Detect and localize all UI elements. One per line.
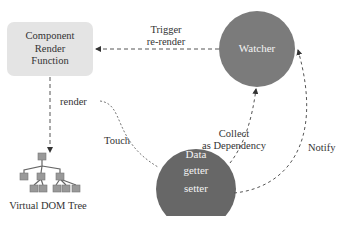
component-label-line3: Function <box>31 55 68 68</box>
vdom-tree-nodes <box>20 153 80 192</box>
watcher-label: Watcher <box>222 42 292 54</box>
touch-edge <box>100 101 158 167</box>
setter-label: setter <box>176 182 216 194</box>
trigger-line1: Trigger <box>140 24 192 36</box>
component-render-function-node: Component Render Function <box>7 22 93 76</box>
collect-line1: Collect <box>196 128 272 140</box>
trigger-line2: re-render <box>140 36 192 48</box>
component-label-line1: Component <box>26 30 75 43</box>
vdom-label: Virtual DOM Tree <box>6 200 90 212</box>
trigger-rerender-label: Trigger re-render <box>140 24 192 48</box>
notify-label: Notify <box>308 142 335 154</box>
component-label-line2: Render <box>35 43 65 56</box>
vdom-tree-icon <box>24 160 76 185</box>
getter-label: getter <box>176 164 216 176</box>
render-label: render <box>60 96 87 108</box>
data-label: Data <box>176 148 216 160</box>
touch-label: Touch <box>104 135 130 147</box>
